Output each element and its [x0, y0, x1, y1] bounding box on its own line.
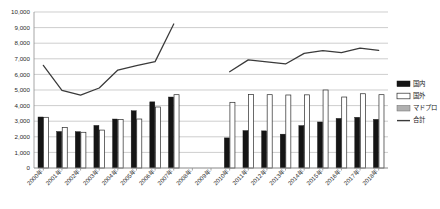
bar-overseas: [379, 95, 384, 168]
bar-domestic: [243, 131, 248, 168]
bar-overseas: [174, 95, 179, 168]
bar-overseas: [249, 94, 254, 168]
y-axis-tick-label: 10,000: [11, 8, 30, 15]
bar-overseas: [360, 94, 365, 168]
x-axis-tick-label: 2012年: [249, 168, 268, 187]
total-line-path: [230, 48, 379, 72]
bar-domestic: [355, 117, 360, 168]
bar-domestic: [262, 131, 267, 168]
bar-overseas: [118, 119, 123, 168]
bar-overseas: [44, 117, 49, 168]
chart-container: 01,0002,0003,0004,0005,0006,0007,0008,00…: [0, 0, 440, 209]
bar-overseas: [230, 102, 235, 168]
y-axis-tick-label: 8,000: [15, 39, 31, 46]
bar-domestic: [150, 102, 155, 168]
x-axis-tick-label: 2002年: [63, 168, 82, 187]
legend-label: 国外: [413, 91, 426, 100]
y-axis-tick-label: 2,000: [15, 133, 31, 140]
bar-domestic: [113, 119, 118, 168]
x-axis-tick-label: 2013年: [268, 168, 287, 187]
bar-overseas: [342, 97, 347, 168]
y-axis-tick-label: 3,000: [15, 117, 31, 124]
x-axis-tick-label: 2003年: [81, 168, 100, 187]
y-axis-tick-label: 4,000: [15, 102, 31, 109]
bar-domestic: [299, 126, 304, 168]
y-axis-tick-label: 6,000: [15, 71, 31, 78]
bar-overseas: [323, 90, 328, 168]
legend-label: 国内: [413, 79, 425, 88]
total-line-series: [43, 24, 378, 95]
bar-overseas: [137, 119, 142, 168]
total-line-path: [43, 24, 173, 95]
x-axis-tick-label: 2014年: [286, 168, 305, 187]
x-axis-tick-label: 2011年: [231, 168, 250, 187]
x-axis-tick-label: 2017年: [342, 168, 361, 187]
x-axis-tick-label: 2007年: [156, 168, 175, 187]
x-axis-tick-label: 2008年: [174, 168, 193, 187]
y-axis-tick-label: 5,000: [15, 86, 31, 93]
bar-domestic: [224, 138, 229, 168]
bar-domestic: [280, 134, 285, 168]
bar-domestic: [75, 132, 80, 168]
bar-domestic: [373, 119, 378, 168]
bar-domestic: [57, 132, 62, 169]
bar-domestic: [38, 117, 43, 168]
chart-legend: 国内国外マドプロ合計: [397, 79, 437, 125]
x-axis-tick-labels: 2000年2001年2002年2003年2004年2005年2006年2007年…: [25, 168, 380, 187]
bar-domestic: [131, 111, 136, 168]
bar-line-combo-chart: 01,0002,0003,0004,0005,0006,0007,0008,00…: [0, 0, 440, 209]
bar-domestic: [94, 125, 99, 168]
bar-overseas: [62, 127, 67, 168]
x-axis-tick-label: 2018年: [361, 168, 380, 187]
x-axis-tick-label: 2001年: [44, 168, 63, 187]
x-axis-tick-label: 2004年: [100, 168, 119, 187]
x-axis-tick-label: 2016年: [323, 168, 342, 187]
y-axis-tick-label: 1,000: [15, 149, 31, 156]
bar-domestic: [168, 97, 173, 168]
legend-marker-domestic: [397, 81, 410, 87]
x-axis-tick-label: 2015年: [305, 168, 324, 187]
y-axis-tick-label: 7,000: [15, 55, 31, 62]
bar-overseas: [304, 95, 309, 168]
bar-overseas: [267, 95, 272, 168]
bar-overseas: [81, 132, 86, 168]
bar-overseas: [99, 130, 104, 168]
legend-label: 合計: [413, 115, 426, 124]
bar-domestic: [317, 122, 322, 168]
y-axis-tick-labels: 01,0002,0003,0004,0005,0006,0007,0008,00…: [11, 8, 30, 171]
legend-label: マドプロ: [413, 104, 437, 111]
x-axis-tick-label: 2010年: [212, 168, 231, 187]
bar-overseas: [155, 107, 160, 168]
x-axis-tick-label: 2009年: [193, 168, 212, 187]
legend-marker-overseas: [397, 93, 410, 99]
bar-overseas: [286, 95, 291, 168]
bar-domestic: [336, 118, 341, 168]
y-axis-tick-label: 9,000: [15, 24, 31, 31]
gridlines: [34, 12, 388, 168]
legend-marker-madpro: [397, 105, 410, 111]
x-axis-tick-label: 2005年: [119, 168, 138, 187]
x-axis-tick-label: 2006年: [137, 168, 156, 187]
y-axis-tick-label: 0: [27, 164, 31, 171]
